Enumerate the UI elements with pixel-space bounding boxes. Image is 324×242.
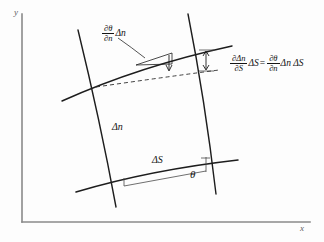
right-normal-curve — [188, 14, 216, 194]
x-axis-label: x — [300, 224, 304, 233]
slope-trailing-term: Δn — [115, 29, 125, 39]
left-normal-curve — [78, 30, 116, 207]
normal-spacing-label: Δn — [112, 122, 123, 132]
equation-left-trailing: ΔS — [248, 59, 258, 69]
equation-right-denominator: ∂n — [267, 64, 279, 73]
angle-label: θ — [190, 169, 195, 180]
equation-right-fraction: ∂θ ∂n — [267, 54, 279, 73]
equation-right-trailing: Δn ΔS — [281, 59, 304, 69]
slope-wedge-group — [118, 38, 172, 71]
slope-term-label: ∂θ ∂n Δn — [101, 24, 126, 43]
streamline-group — [62, 46, 238, 192]
slope-fraction: ∂θ ∂n — [102, 24, 114, 43]
equation-left-fraction: ∂Δn ∂S — [230, 54, 247, 73]
equation-label: ∂Δn ∂S ΔS= ∂θ ∂n Δn ΔS — [229, 54, 304, 73]
equation-left-denominator: ∂S — [230, 64, 247, 73]
equation-equals-sign: = — [260, 59, 265, 69]
streamline-geometry-diagram — [0, 0, 324, 242]
arc-angle-group — [124, 157, 210, 186]
axis-group — [22, 14, 310, 222]
upper-streamline-curve — [62, 46, 232, 101]
slope-denominator: ∂n — [102, 34, 114, 43]
figure-container: ∂θ ∂n Δn ∂Δn ∂S ΔS= ∂θ ∂n Δn ΔS Δn ΔS θ … — [0, 0, 324, 242]
arc-length-label: ΔS — [152, 155, 163, 165]
y-axis-label: y — [14, 8, 18, 17]
